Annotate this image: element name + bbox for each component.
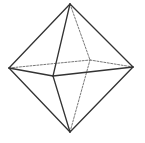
visible-edges <box>9 4 133 132</box>
octahedron-diagram <box>0 0 145 143</box>
edge-front-right <box>53 67 133 76</box>
edge-top-right <box>70 4 133 67</box>
hidden-edge-top-back <box>70 4 90 60</box>
edge-top-left <box>9 4 70 68</box>
hidden-edges <box>9 4 133 132</box>
hidden-edge-left-back <box>9 60 90 68</box>
edge-bottom-right <box>70 67 133 132</box>
edge-top-front <box>53 4 70 76</box>
